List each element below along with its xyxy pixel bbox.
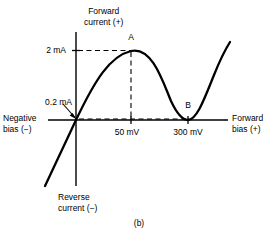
x-axis-positive-label: Forward bias (+)	[232, 113, 263, 134]
figure-caption: (b)	[119, 218, 159, 229]
x-axis-tick-label-300mv: 300 mV	[166, 127, 210, 138]
valley-point-label: B	[178, 100, 198, 111]
y-axis-negative-label: Reverse current (−)	[58, 192, 97, 213]
y-axis-positive-label: Forward current (+)	[84, 6, 123, 27]
peak-current-value-label: 2 mA	[18, 45, 66, 56]
x-axis-negative-label: Negative bias (−)	[3, 113, 37, 134]
tunnel-diode-iv-characteristic-figure: Forward current (+) 2 mA 0.2 mA Negative…	[0, 0, 278, 235]
peak-point-label: A	[121, 32, 141, 43]
x-axis-tick-label-50mv: 50 mV	[107, 127, 147, 138]
valley-current-value-label: 0.2 mA	[16, 97, 72, 108]
